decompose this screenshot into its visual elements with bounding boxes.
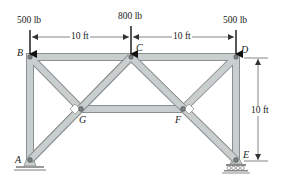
- truss-diagram: 500 lb 800 lb 500 lb 10 ft 10 ft 10 ft B…: [0, 0, 285, 189]
- node-label-f: F: [175, 115, 181, 125]
- node-label-c: C: [136, 43, 143, 53]
- dimension-label-de: 10 ft: [250, 106, 270, 116]
- node-label-d: D: [241, 45, 248, 55]
- load-label-d: 500 lb: [223, 16, 247, 26]
- load-label-c: 800 lb: [118, 12, 142, 22]
- truss-members: [26, 57, 240, 160]
- load-label-b: 500 lb: [17, 16, 41, 26]
- node-label-g: G: [79, 115, 86, 125]
- dimension-label-cd: 10 ft: [172, 32, 192, 42]
- dimension-label-bc: 10 ft: [70, 32, 90, 42]
- node-label-b: B: [17, 48, 23, 58]
- load-arrows: [30, 26, 236, 54]
- node-label-a: A: [15, 155, 21, 165]
- node-label-e: E: [243, 150, 249, 160]
- truss-drawing: [0, 0, 285, 189]
